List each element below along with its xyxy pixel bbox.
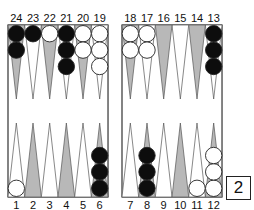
white-checker-point-17[interactable]: [139, 26, 155, 42]
white-checker-point-17[interactable]: [139, 42, 155, 58]
white-checker-point-19[interactable]: [91, 26, 107, 42]
black-checker-point-6[interactable]: [91, 147, 107, 163]
white-checker-point-20[interactable]: [75, 42, 91, 58]
black-checker-point-13[interactable]: [205, 42, 221, 58]
black-checker-point-21[interactable]: [58, 42, 74, 58]
black-checker-point-23[interactable]: [25, 26, 41, 42]
white-checker-point-18[interactable]: [122, 26, 138, 42]
white-checker-point-11[interactable]: [189, 180, 205, 196]
black-checker-point-13[interactable]: [205, 58, 221, 74]
black-checker-point-24[interactable]: [8, 42, 24, 58]
black-checker-point-21[interactable]: [58, 58, 74, 74]
white-checker-point-22[interactable]: [41, 26, 57, 42]
doubling-cube[interactable]: 2: [226, 176, 251, 200]
black-checker-point-6[interactable]: [91, 180, 107, 196]
white-checker-point-12[interactable]: [205, 164, 221, 180]
white-checker-point-19[interactable]: [91, 42, 107, 58]
white-checker-point-19[interactable]: [91, 58, 107, 74]
black-checker-point-8[interactable]: [139, 164, 155, 180]
white-checker-point-20[interactable]: [75, 26, 91, 42]
black-checker-point-6[interactable]: [91, 164, 107, 180]
white-checker-point-1[interactable]: [8, 180, 24, 196]
black-checker-point-21[interactable]: [58, 26, 74, 42]
black-checker-point-8[interactable]: [139, 180, 155, 196]
black-checker-point-24[interactable]: [8, 26, 24, 42]
black-checker-point-13[interactable]: [205, 26, 221, 42]
white-checker-point-12[interactable]: [205, 147, 221, 163]
white-checker-point-12[interactable]: [205, 180, 221, 196]
backgammon-board: [0, 0, 254, 210]
white-checker-point-18[interactable]: [122, 42, 138, 58]
black-checker-point-8[interactable]: [139, 147, 155, 163]
